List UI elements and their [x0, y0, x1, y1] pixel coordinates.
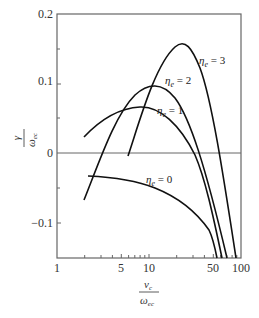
- x-tick-1: 1: [54, 261, 60, 275]
- x-tick-50: 50: [207, 261, 219, 275]
- curve-eta-0: [88, 176, 217, 258]
- svg-text:γ: γ: [10, 135, 22, 140]
- y-tick-0.2: 0.2: [38, 7, 53, 21]
- x-axis-label: νc ωec: [139, 278, 159, 308]
- x-tick-5: 5: [118, 261, 124, 275]
- y-tick-0.1: 0.1: [38, 74, 53, 88]
- growth-rate-chart: 0.2 0.1 0 −0.1 1 5 10 50 100 ηe = 3 ηe =…: [0, 0, 259, 318]
- y-tick-0: 0: [47, 146, 53, 160]
- svg-text:ωec: ωec: [140, 294, 155, 308]
- svg-text:ωec: ωec: [25, 132, 39, 147]
- svg-text:νc: νc: [144, 278, 153, 292]
- y-tick-minus-0.1: −0.1: [31, 216, 53, 230]
- curve-label-eta-3: ηe = 3: [199, 54, 226, 69]
- x-tick-100: 100: [232, 261, 250, 275]
- curve-label-eta-2: ηe = 2: [165, 74, 191, 89]
- curve-label-eta-1: ηe = 1: [157, 104, 183, 119]
- x-axis-ticks: [85, 254, 237, 258]
- y-axis-label: γ ωec: [10, 129, 39, 147]
- x-tick-10: 10: [143, 261, 155, 275]
- curve-eta-2: [84, 86, 227, 258]
